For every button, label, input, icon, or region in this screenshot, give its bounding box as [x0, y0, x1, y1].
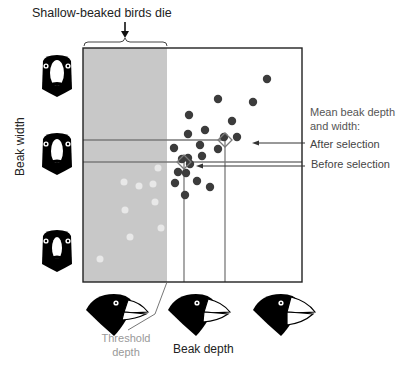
bird-head-front-narrow-beak-icon [42, 55, 72, 97]
bird-head-side-shallow-beak-icon [86, 294, 148, 336]
after-selection-arrow-icon [252, 141, 305, 146]
diagram-title: Shallow-beaked birds die [32, 6, 172, 20]
down-arrow-icon [121, 22, 129, 38]
bird-head-front-medium-beak-icon [42, 133, 72, 175]
threshold-depth-label: Threshold depth [96, 331, 156, 359]
before-selection-arrow-icon [196, 164, 305, 169]
mean-legend-heading: Mean beak depth and width: [310, 105, 405, 133]
diagram-canvas [0, 0, 411, 369]
before-selection-label: Before selection [311, 158, 390, 170]
selection-shaded-region [83, 48, 167, 282]
brace-icon [84, 38, 167, 46]
y-axis-label: Beak width [13, 117, 27, 176]
threshold-pointer [155, 282, 167, 314]
bird-head-side-deep-beak-icon [253, 294, 315, 336]
after-selection-label: After selection [310, 138, 380, 150]
bird-head-front-wide-beak-icon [42, 230, 72, 272]
x-axis-label: Beak depth [173, 342, 234, 356]
bird-head-side-medium-beak-icon [168, 294, 230, 336]
